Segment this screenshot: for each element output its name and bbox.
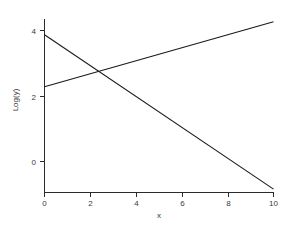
x-tick-label-2: 2 bbox=[88, 199, 93, 208]
x-axis-title: x bbox=[157, 211, 161, 220]
data-line-ascending bbox=[45, 22, 274, 87]
chart-figure: 4 2 0 0 2 4 6 8 10 x Log(y) bbox=[0, 0, 292, 231]
data-line-descending bbox=[45, 35, 274, 189]
x-tick-label-0: 0 bbox=[42, 199, 47, 208]
y-tick-label-4: 4 bbox=[32, 27, 37, 36]
y-tick-label-0: 0 bbox=[32, 158, 37, 167]
y-axis-title: Log(y) bbox=[11, 88, 20, 111]
x-tick-label-4: 4 bbox=[134, 199, 139, 208]
x-tick-label-6: 6 bbox=[180, 199, 185, 208]
x-tick-label-10: 10 bbox=[269, 199, 278, 208]
y-tick-label-2: 2 bbox=[32, 93, 37, 102]
chart-plot-svg: 4 2 0 0 2 4 6 8 10 x Log(y) bbox=[0, 0, 292, 231]
x-tick-label-8: 8 bbox=[226, 199, 231, 208]
